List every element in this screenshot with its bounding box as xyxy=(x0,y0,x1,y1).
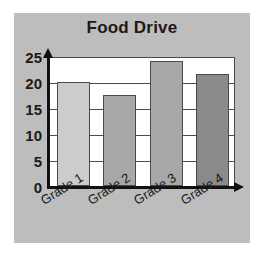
x-tick-label: Grade 4 xyxy=(178,170,226,208)
x-tick-label: Grade 1 xyxy=(38,170,86,208)
x-tick-label: Grade 3 xyxy=(131,170,179,208)
x-axis-tick-labels: Grade 1Grade 2Grade 3Grade 4 xyxy=(0,0,265,255)
x-tick-label: Grade 2 xyxy=(85,170,133,208)
chart-figure: Food Drive 0510152025 Grade 1Grade 2Grad… xyxy=(0,0,265,255)
